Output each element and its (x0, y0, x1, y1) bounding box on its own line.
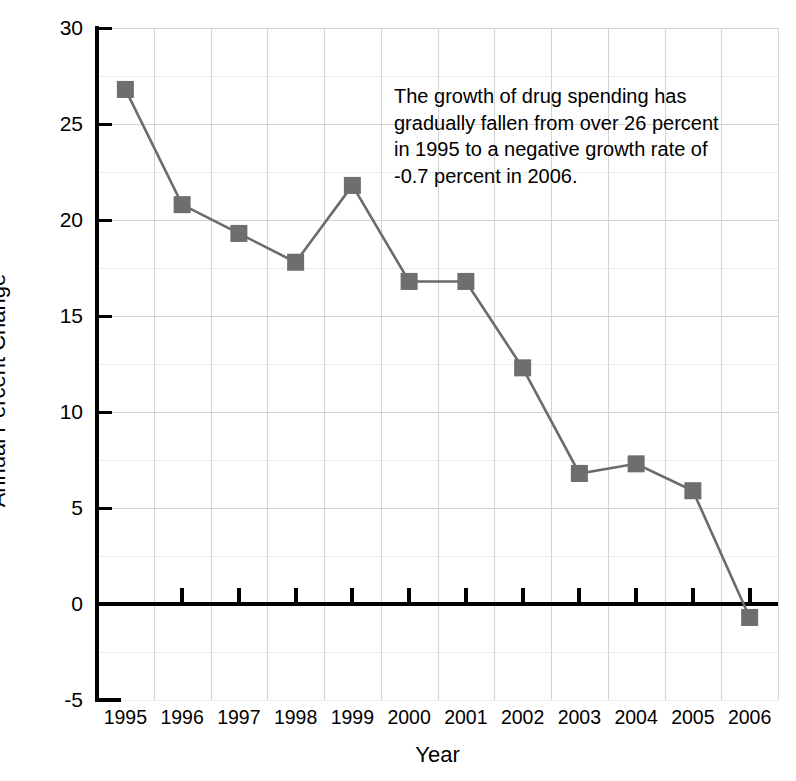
x-axis-tick (180, 588, 184, 604)
gridline-v (778, 28, 779, 700)
x-axis-tick-label: 2004 (614, 706, 657, 729)
y-axis-tick (97, 411, 112, 414)
y-axis-tick (97, 603, 112, 606)
y-axis-tick-label: 25 (23, 112, 83, 136)
y-axis-tick-label: 0 (23, 592, 83, 616)
x-axis-tick (237, 588, 241, 604)
x-axis-tick (634, 588, 638, 604)
gridline-v (324, 28, 325, 700)
annotation-line: -0.7 percent in 2006. (394, 163, 724, 190)
y-axis-tick-label: 30 (23, 16, 83, 40)
x-axis-tick-label: 1997 (217, 706, 260, 729)
y-axis-tick-label: 10 (23, 400, 83, 424)
x-axis-tick-label: 1996 (160, 706, 203, 729)
x-axis-tick (350, 588, 354, 604)
y-axis-tick (97, 507, 112, 510)
annotation-line: gradually fallen from over 26 percent (394, 110, 724, 137)
zero-baseline (95, 602, 778, 606)
x-axis-tick-label: 1999 (331, 706, 374, 729)
y-axis-tick (97, 123, 112, 126)
x-axis-tick-label: 2006 (728, 706, 771, 729)
x-axis-tick (521, 588, 525, 604)
chart-annotation: The growth of drug spending hasgradually… (394, 83, 724, 189)
x-axis-tick (577, 588, 581, 604)
x-axis-tick-label: 2002 (501, 706, 544, 729)
x-axis-tick (748, 588, 752, 604)
y-axis-spine (95, 26, 99, 702)
y-axis-tick-label: 15 (23, 304, 83, 328)
chart-figure: Annual Percent Change Year 302520151050-… (0, 0, 796, 781)
x-axis-tick-label: 2001 (444, 706, 487, 729)
y-axis-tick-label: 20 (23, 208, 83, 232)
gridline-v (381, 28, 382, 700)
annotation-line: The growth of drug spending has (394, 83, 724, 110)
y-axis-tick (97, 315, 112, 318)
gridline-major-h (97, 700, 778, 701)
x-axis-tick (691, 588, 695, 604)
x-axis-tick-label: 2000 (387, 706, 430, 729)
x-axis-tick-label: 2005 (671, 706, 714, 729)
annotation-line: in 1995 to a negative growth rate of (394, 136, 724, 163)
x-axis-tick (294, 588, 298, 604)
x-axis-tick (464, 588, 468, 604)
gridline-v (154, 28, 155, 700)
y-axis-tick-label: 5 (23, 496, 83, 520)
y-axis-tick (97, 699, 112, 702)
y-axis-tick (97, 27, 112, 30)
x-axis-title: Year (97, 742, 778, 768)
x-axis-tick-label: 2003 (558, 706, 601, 729)
gridline-v (267, 28, 268, 700)
x-axis-tick (407, 588, 411, 604)
gridline-v (211, 28, 212, 700)
x-axis-tick-label: 1995 (104, 706, 147, 729)
y-axis-tick-label: -5 (23, 688, 83, 712)
x-axis-tick-label: 1998 (274, 706, 317, 729)
y-axis-tick (97, 219, 112, 222)
